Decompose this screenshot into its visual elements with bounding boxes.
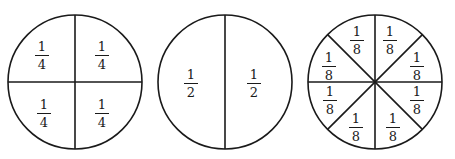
fraction-label: 1 4 <box>92 98 112 129</box>
fraction-bar <box>410 66 424 67</box>
fraction-label: 1 8 <box>346 112 366 143</box>
denominator: 4 <box>92 116 112 129</box>
fraction-label: 1 8 <box>383 112 403 143</box>
fraction-bar <box>35 55 49 56</box>
denominator: 8 <box>407 103 427 116</box>
denominator: 2 <box>244 86 264 99</box>
denominator: 8 <box>346 130 366 143</box>
numerator: 1 <box>346 112 366 125</box>
numerator: 1 <box>319 51 339 64</box>
numerator: 1 <box>92 40 112 53</box>
fraction-bar <box>95 113 109 114</box>
fraction-label: 1 8 <box>380 25 400 56</box>
fraction-label: 1 8 <box>319 51 339 82</box>
numerator: 1 <box>383 112 403 125</box>
fraction-bar <box>184 83 198 84</box>
numerator: 1 <box>407 85 427 98</box>
circle-quarters <box>8 15 142 149</box>
fraction-bar <box>383 40 397 41</box>
denominator: 8 <box>319 69 339 82</box>
denominator: 8 <box>407 69 427 82</box>
fraction-label: 1 8 <box>407 85 427 116</box>
denominator: 8 <box>380 43 400 56</box>
fraction-label: 1 8 <box>347 25 367 56</box>
numerator: 1 <box>347 25 367 38</box>
fraction-bar <box>247 83 261 84</box>
fraction-label: 1 4 <box>32 40 52 71</box>
denominator: 2 <box>181 86 201 99</box>
numerator: 1 <box>181 68 201 81</box>
denominator: 4 <box>32 58 52 71</box>
numerator: 1 <box>92 98 112 111</box>
fraction-bar <box>322 66 336 67</box>
denominator: 4 <box>34 116 54 129</box>
fraction-label: 1 2 <box>181 68 201 99</box>
denominator: 8 <box>347 43 367 56</box>
fraction-bar <box>386 127 400 128</box>
fraction-label: 1 8 <box>407 51 427 82</box>
numerator: 1 <box>34 98 54 111</box>
denominator: 4 <box>92 58 112 71</box>
numerator: 1 <box>244 68 264 81</box>
fraction-bar <box>350 40 364 41</box>
fraction-bar <box>410 100 424 101</box>
fraction-bar <box>37 113 51 114</box>
fraction-label: 1 8 <box>320 85 340 116</box>
fraction-bar <box>95 55 109 56</box>
fraction-label: 1 2 <box>244 68 264 99</box>
numerator: 1 <box>320 85 340 98</box>
circle-halves <box>158 15 292 149</box>
numerator: 1 <box>407 51 427 64</box>
fraction-bar <box>349 127 363 128</box>
numerator: 1 <box>32 40 52 53</box>
fraction-label: 1 4 <box>92 40 112 71</box>
numerator: 1 <box>380 25 400 38</box>
denominator: 8 <box>383 130 403 143</box>
fraction-label: 1 4 <box>34 98 54 129</box>
fraction-bar <box>323 100 337 101</box>
denominator: 8 <box>320 103 340 116</box>
